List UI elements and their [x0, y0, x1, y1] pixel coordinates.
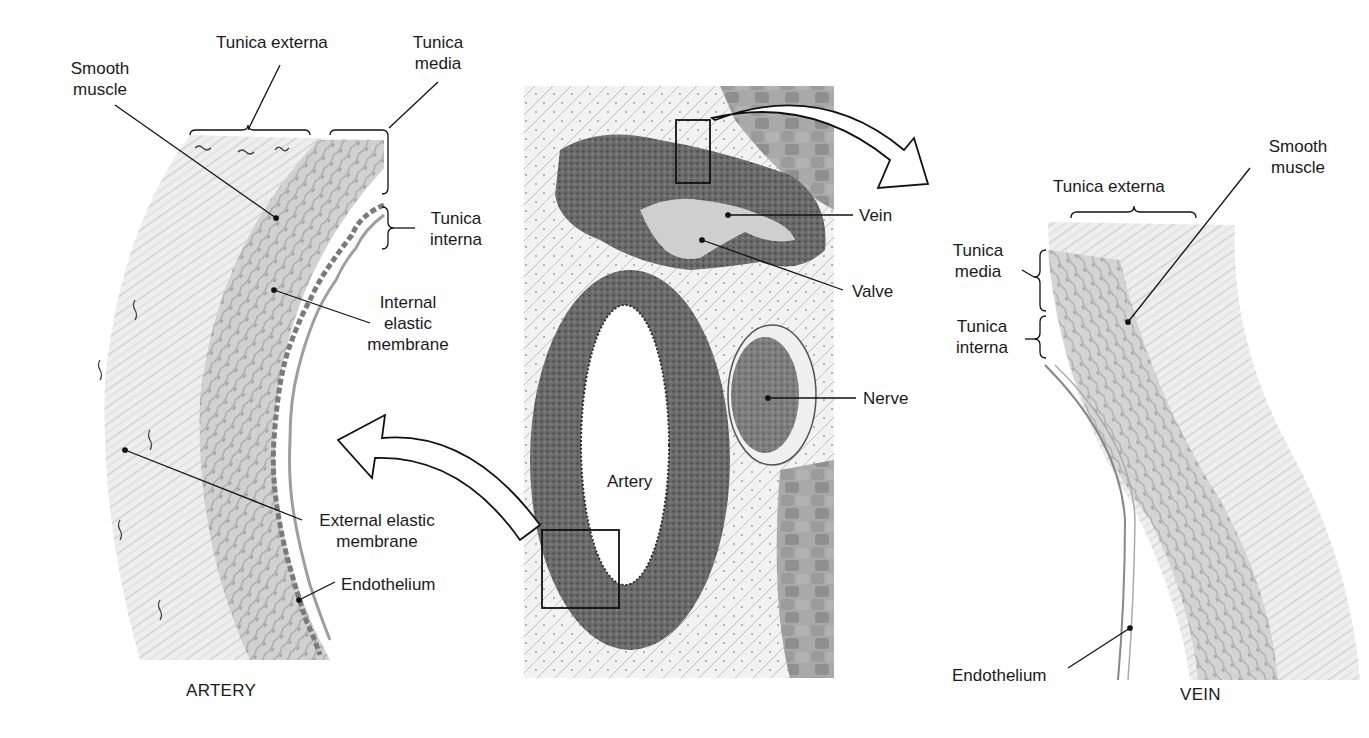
- label-artery-tunica-interna: Tunica interna: [418, 208, 494, 250]
- label-nerve: Nerve: [863, 388, 908, 409]
- label-vein-tunica-media: Tunica media: [940, 240, 1016, 282]
- label-line: Smooth: [60, 58, 140, 79]
- label-internal-elastic-membrane: Internal elastic membrane: [358, 292, 458, 355]
- label-line: elastic: [358, 313, 458, 334]
- label-line: Tunica: [400, 32, 476, 53]
- label-line: media: [940, 261, 1016, 282]
- label-line: Smooth: [1253, 136, 1343, 157]
- vein-illustration: [1045, 222, 1360, 680]
- label-vein-smooth-muscle: Smooth muscle: [1253, 136, 1343, 178]
- label-artery-smooth-muscle: Smooth muscle: [60, 58, 140, 100]
- label-line: Tunica: [418, 208, 494, 229]
- vessel-diagram: Smooth muscle Tunica externa Tunica medi…: [0, 0, 1369, 738]
- label-line: muscle: [1253, 157, 1343, 178]
- label-line: media: [400, 53, 476, 74]
- label-vein-tunica-interna: Tunica interna: [944, 316, 1020, 358]
- label-valve: Valve: [852, 281, 893, 302]
- label-vein: Vein: [859, 205, 892, 226]
- caption-artery: ARTERY: [186, 681, 256, 701]
- label-external-elastic-membrane: External elastic membrane: [302, 510, 452, 552]
- label-artery-micrograph: Artery: [607, 471, 652, 492]
- label-artery-tunica-externa: Tunica externa: [216, 32, 328, 53]
- label-artery-tunica-media: Tunica media: [400, 32, 476, 74]
- caption-vein: VEIN: [1180, 685, 1221, 705]
- label-line: interna: [418, 229, 494, 250]
- label-line: External elastic: [302, 510, 452, 531]
- diagram-graphics: [0, 0, 1369, 738]
- label-line: membrane: [302, 531, 452, 552]
- label-vein-tunica-externa: Tunica externa: [1053, 176, 1165, 197]
- label-artery-endothelium: Endothelium: [341, 574, 436, 595]
- label-line: muscle: [60, 79, 140, 100]
- label-line: Internal: [358, 292, 458, 313]
- label-line: Tunica: [944, 316, 1020, 337]
- label-vein-endothelium: Endothelium: [952, 665, 1047, 686]
- label-line: interna: [944, 337, 1020, 358]
- label-line: Tunica: [940, 240, 1016, 261]
- label-line: membrane: [358, 334, 458, 355]
- micrograph: [524, 86, 834, 678]
